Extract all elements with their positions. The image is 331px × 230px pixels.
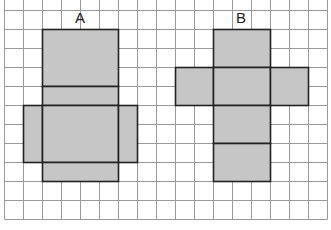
net-face [43, 87, 119, 106]
net-label-a: A [75, 10, 85, 25]
net-face [119, 106, 138, 163]
net-face [24, 106, 43, 163]
net-face [214, 106, 271, 144]
net-face [176, 68, 214, 106]
grid-diagram [0, 0, 331, 230]
net-face [271, 68, 309, 106]
net-a [24, 30, 138, 182]
net-face [43, 30, 119, 87]
net-face [214, 68, 271, 106]
net-face [214, 30, 271, 68]
net-b [176, 30, 309, 182]
net-face [214, 144, 271, 182]
net-face [43, 163, 119, 182]
net-face [43, 106, 119, 163]
net-label-b: B [236, 10, 246, 25]
